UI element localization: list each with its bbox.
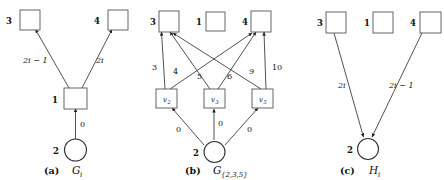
node-1-label: 1 [196, 17, 202, 27]
node-4-label: 4 [94, 16, 100, 26]
edge-label-v5-3: 5 [197, 72, 202, 81]
node-v2-sublabel: 2 [167, 99, 171, 105]
edge-label-3-2: 2i [337, 81, 346, 90]
edge-v5-to-3 [173, 33, 261, 89]
node-1[interactable] [206, 12, 225, 31]
node-v3-label: v [211, 96, 215, 104]
node-3-label: 3 [6, 16, 12, 26]
edge-v3-to-3 [170, 32, 210, 89]
edge-label-4-2: 2i − 1 [388, 81, 414, 90]
edge-v2-to-4 [170, 33, 252, 89]
node-4-label: 4 [242, 17, 248, 27]
caption-tag-a: (a) [44, 165, 59, 176]
panel-graph-c: 3 1 4 2 2i 2i − 1 (c) H i [296, 0, 444, 180]
node-1[interactable] [64, 88, 87, 109]
node-v5-sublabel: 5 [264, 99, 267, 105]
edge-label-2-v3: 0 [218, 119, 223, 128]
caption-tag-b: (b) [185, 165, 201, 176]
caption-subscript-b: {2,3,5} [221, 171, 248, 179]
node-1-label: 1 [364, 18, 370, 28]
edge-v2-to-3 [162, 32, 166, 89]
node-3-label: 3 [150, 17, 156, 27]
node-2[interactable] [204, 142, 225, 163]
edge-label-v3-4: 9 [249, 67, 254, 76]
edge-label-v2-4: 6 [227, 72, 232, 81]
panel-a-canvas: 3 4 1 2 2i − 1 2i 0 (a) G i [0, 0, 150, 180]
edge-label-2-1: 0 [80, 120, 85, 129]
edge-2-to-v5 [225, 108, 258, 145]
node-2-label: 2 [347, 145, 353, 155]
node-2-label: 2 [53, 146, 59, 156]
node-3[interactable] [326, 12, 346, 33]
edge-v3-to-4 [218, 32, 256, 89]
edge-label-v3-3: 4 [173, 67, 178, 76]
node-1[interactable] [373, 12, 393, 33]
edge-label-1-4: 2i [95, 56, 104, 65]
node-1-label: 1 [52, 95, 58, 105]
panel-graph-b: 3 1 4 v 2 v 3 v 5 2 3 4 5 [148, 0, 298, 180]
node-2-label: 2 [193, 148, 199, 158]
edge-label-1-3: 2i − 1 [22, 56, 48, 65]
node-2[interactable] [358, 139, 379, 160]
node-v5-label: v [259, 96, 263, 104]
edge-label-v5-4: 10 [272, 63, 282, 72]
edge-label-v2-3: 3 [152, 63, 157, 72]
caption-subscript-c: i [378, 171, 380, 179]
figure-root: 3 4 1 2 2i − 1 2i 0 (a) G i [0, 0, 444, 180]
node-4[interactable] [108, 10, 128, 30]
node-4[interactable] [251, 11, 271, 32]
caption-tag-c: (c) [340, 165, 355, 176]
edge-label-2-v2: 0 [176, 125, 181, 134]
node-3[interactable] [20, 10, 40, 30]
edge-v5-to-4 [264, 32, 266, 89]
edge-label-2-v5: 0 [247, 125, 252, 134]
node-4[interactable] [420, 12, 441, 33]
node-3-label: 3 [317, 18, 323, 28]
node-v2-label: v [163, 96, 167, 104]
panel-graph-a: 3 4 1 2 2i − 1 2i 0 (a) G i [0, 0, 150, 180]
panel-c-canvas: 3 1 4 2 2i 2i − 1 (c) H i [296, 0, 444, 180]
caption-subscript-a: i [80, 171, 82, 179]
panel-b-canvas: 3 1 4 v 2 v 3 v 5 2 3 4 5 [148, 0, 298, 180]
node-4-label: 4 [410, 18, 416, 28]
node-2[interactable] [65, 139, 87, 161]
node-3[interactable] [159, 11, 179, 32]
node-v3-sublabel: 3 [216, 99, 219, 105]
